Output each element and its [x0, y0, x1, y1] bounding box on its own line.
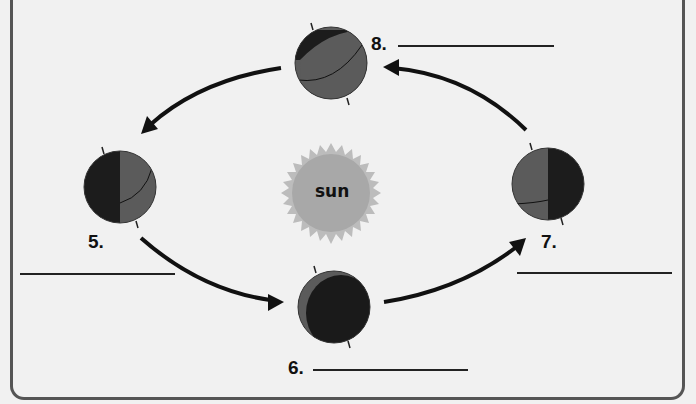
earth-globe-5-icon [84, 147, 156, 228]
orbit-arrow-6-to-7 [384, 238, 526, 302]
answer-line-6[interactable] [313, 369, 468, 371]
worksheet-page: sun 8. 5. 6. 7. [0, 0, 696, 404]
earth-orbit-diagram [0, 0, 696, 404]
position-label-6: 6. [288, 357, 304, 379]
answer-line-7[interactable] [517, 272, 672, 274]
orbit-arrow-7-to-8 [383, 59, 526, 130]
sun-label: sun [315, 181, 349, 201]
answer-line-8[interactable] [398, 45, 554, 47]
earth-globe-6-icon [298, 266, 376, 351]
orbit-arrow-8-to-5 [141, 68, 281, 134]
answer-line-5[interactable] [20, 273, 175, 275]
position-label-5: 5. [88, 231, 104, 253]
earth-globe-7-icon [512, 143, 584, 225]
position-label-7: 7. [541, 231, 557, 253]
earth-globe-8-icon [295, 23, 376, 114]
position-label-8: 8. [371, 33, 387, 55]
